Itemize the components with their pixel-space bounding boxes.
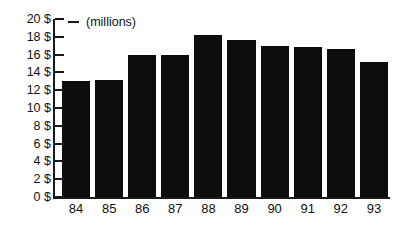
bar-column [360,19,388,197]
x-axis-labels: 84858687888990919293 [62,201,388,218]
y-tick-label: 10 $ [5,102,51,115]
y-tick-label: 0 $ [5,191,51,204]
bar-column [327,19,355,197]
bar-87 [161,55,189,197]
x-tick-label: 86 [128,201,156,218]
y-axis-line [53,19,55,199]
bar-85 [95,80,123,197]
bar-column [62,19,90,197]
x-tick-label: 93 [360,201,388,218]
bar-84 [62,81,90,197]
bar-92 [327,49,355,197]
x-tick-label: 91 [294,201,322,218]
x-tick-label: 84 [62,201,90,218]
x-axis-line [53,197,390,199]
x-tick-label: 87 [161,201,189,218]
y-tick-label: 6 $ [5,137,51,150]
bar-column [194,19,222,197]
y-tick-label: 16 $ [5,48,51,61]
y-tick-label: 2 $ [5,173,51,186]
bar-series [62,19,388,197]
bar-88 [194,35,222,197]
bar-91 [294,47,322,197]
bar-column [161,19,189,197]
x-tick-label: 88 [194,201,222,218]
x-tick-label: 89 [227,201,255,218]
bar-89 [227,40,255,197]
x-tick-label: 92 [327,201,355,218]
bar-column [227,19,255,197]
y-tick-label: 18 $ [5,31,51,44]
x-tick-label: 90 [261,201,289,218]
bar-chart-figure: 0 $2 $4 $6 $8 $10 $12 $14 $16 $18 $20 $ … [0,0,400,229]
bar-column [294,19,322,197]
y-tick-label: 8 $ [5,120,51,133]
bar-column [95,19,123,197]
bar-86 [128,55,156,197]
y-tick-label: 4 $ [5,155,51,168]
y-tick-label: 12 $ [5,84,51,97]
y-tick-label: 14 $ [5,66,51,79]
plot-area [62,19,388,197]
y-tick-label: 20 $ [5,13,51,26]
bar-column [261,19,289,197]
bar-93 [360,62,388,197]
bar-90 [261,46,289,197]
x-tick-label: 85 [95,201,123,218]
bar-column [128,19,156,197]
